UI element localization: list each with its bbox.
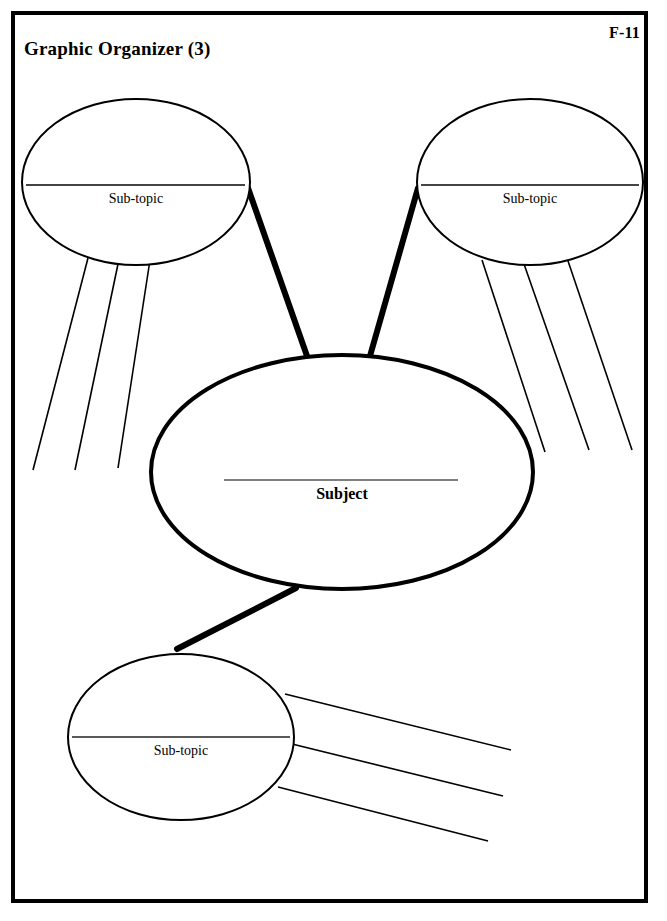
worksheet-page: Graphic Organizer (3) F-11 xyxy=(0,0,667,921)
detail-line-tl-3 xyxy=(118,260,150,468)
detail-line-b-3 xyxy=(278,787,488,841)
sub-topic-ellipse-top-right[interactable] xyxy=(417,99,643,265)
sub-topic-node-top-right[interactable] xyxy=(417,99,643,265)
detail-line-tl-2 xyxy=(75,264,118,470)
sub-topic-label-top-right: Sub-topic xyxy=(410,191,650,207)
sub-topic-node-top-left[interactable] xyxy=(22,99,250,265)
detail-line-tr-3 xyxy=(567,258,632,450)
sub-topic-ellipse-top-left[interactable] xyxy=(22,99,250,265)
sub-topic-label-top-left: Sub-topic xyxy=(16,191,256,207)
sub-topic-label-bottom: Sub-topic xyxy=(61,743,301,759)
detail-line-b-2 xyxy=(288,743,503,796)
detail-line-b-1 xyxy=(285,694,511,750)
connector-center-to-top-right xyxy=(370,188,418,356)
subject-ellipse[interactable] xyxy=(151,355,533,589)
concept-map-canvas xyxy=(0,0,667,921)
detail-line-tl-1 xyxy=(33,258,88,470)
connector-center-to-bottom xyxy=(177,588,296,649)
subject-label: Subject xyxy=(222,485,462,503)
subject-node[interactable] xyxy=(151,355,533,589)
sub-topic-node-bottom[interactable] xyxy=(68,654,294,820)
connector-center-to-top-left xyxy=(248,188,307,356)
